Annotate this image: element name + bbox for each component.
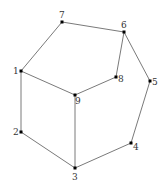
edge-7-1: [21, 22, 62, 71]
edge-7-6: [62, 22, 124, 32]
labels-group: 123456789: [13, 10, 158, 182]
node-label-4: 4: [133, 142, 139, 152]
node-label-3: 3: [72, 172, 78, 182]
edge-6-5: [124, 32, 150, 81]
edge-3-4: [75, 143, 131, 168]
node-label-1: 1: [13, 66, 19, 76]
node-1: [20, 70, 23, 73]
edge-6-8: [116, 32, 124, 77]
node-label-6: 6: [121, 20, 127, 30]
node-label-5: 5: [152, 77, 158, 87]
node-3: [74, 167, 77, 170]
edge-4-5: [131, 81, 150, 143]
graph-diagram: 123456789: [0, 0, 167, 193]
node-label-9: 9: [75, 96, 81, 106]
node-7: [61, 21, 64, 24]
edge-1-9: [21, 71, 75, 95]
edge-2-3: [21, 132, 75, 168]
edges-group: [21, 22, 150, 168]
node-6: [123, 31, 126, 34]
node-label-2: 2: [13, 127, 19, 137]
node-label-7: 7: [59, 10, 65, 20]
nodes-group: [20, 21, 152, 170]
node-2: [20, 131, 23, 134]
node-label-8: 8: [118, 74, 124, 84]
edge-8-9: [75, 77, 116, 95]
